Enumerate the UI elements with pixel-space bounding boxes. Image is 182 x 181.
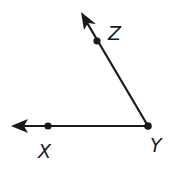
ray-yx — [11, 119, 148, 133]
label-z: Z — [107, 22, 122, 44]
angle-diagram: X Y Z — [0, 0, 182, 181]
point-z — [93, 37, 100, 44]
point-y — [144, 122, 152, 130]
label-y: Y — [150, 134, 163, 156]
label-x: X — [37, 140, 52, 162]
point-x — [44, 122, 51, 129]
